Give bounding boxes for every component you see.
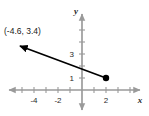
coordinate-plane-graph: -4 -2 2 1 3 x y (-4.6, 3.4) bbox=[0, 0, 149, 116]
ray-line bbox=[20, 46, 106, 78]
graph-svg: -4 -2 2 1 3 x y (-4.6, 3.4) bbox=[0, 0, 149, 116]
y-axis-name-label: y bbox=[73, 6, 79, 16]
y-tick-label-1: 1 bbox=[70, 74, 75, 83]
x-tick-label-pos2: 2 bbox=[104, 96, 109, 105]
endpoint-dot-marker bbox=[103, 75, 109, 81]
y-tick-label-3: 3 bbox=[70, 50, 75, 59]
endpoint-coordinate-label: (-4.6, 3.4) bbox=[4, 26, 41, 36]
x-axis-name-label: x bbox=[137, 95, 143, 105]
x-tick-label-neg2: -2 bbox=[54, 96, 62, 105]
x-tick-label-neg4: -4 bbox=[30, 96, 38, 105]
